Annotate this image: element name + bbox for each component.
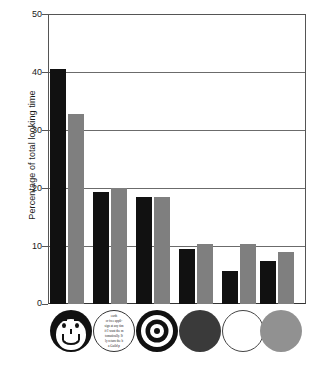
stimulus-cell-yellow-disc (260, 310, 304, 354)
y-tick-mark-0 (42, 304, 48, 305)
bar-red-disc-gray (197, 244, 213, 304)
bar-red-disc-black (179, 249, 195, 304)
y-tick-label-50: 50 (2, 9, 42, 19)
bar-face-black (50, 69, 66, 304)
face-mouth (62, 334, 80, 345)
newsprint-line: sign at any tim (105, 324, 124, 328)
bar-white-disc-black (222, 271, 238, 304)
newsprint-line: a Guild p (108, 344, 120, 348)
bar-group-printed-matter (93, 14, 127, 304)
bar-bullseye-black (136, 197, 152, 304)
newsprint-line: ly return the b (105, 339, 123, 343)
stimulus-yellow-disc-icon (260, 310, 302, 352)
newsprint-text: earthor free appli-sign at any timif I w… (94, 311, 134, 351)
stimulus-cell-red-disc (179, 310, 223, 354)
face-eye-left (62, 323, 66, 328)
stimulus-face-icon (50, 310, 92, 352)
bar-printed-matter-black (93, 192, 109, 304)
bar-bullseye-gray (154, 197, 170, 304)
bar-yellow-disc-black (260, 261, 276, 304)
bar-group-face (50, 14, 84, 304)
stimulus-newsprint-icon: earthor free appli-sign at any timif I w… (93, 310, 135, 352)
bar-white-disc-gray (240, 244, 256, 304)
bar-group-white-disc (222, 14, 256, 304)
face-brow-right (74, 319, 80, 321)
bar-group-bullseye (136, 14, 170, 304)
bar-group-red-disc (179, 14, 213, 304)
stimulus-cell-bullseye (136, 310, 180, 354)
bar-group-yellow-disc (260, 14, 294, 304)
y-axis-title: Percentage of total looking time (27, 55, 37, 255)
newsprint-line: tomatically. If (105, 334, 123, 338)
y-tick-label-10: 10 (2, 241, 42, 251)
y-tick-label-30: 30 (2, 125, 42, 135)
stimulus-red-disc-icon (179, 310, 221, 352)
newsprint-line: if I want the m (105, 329, 124, 333)
newsprint-line: or free appli- (106, 319, 123, 323)
y-tick-label-20: 20 (2, 183, 42, 193)
bar-yellow-disc-gray (278, 252, 294, 304)
bar-chart-figure: Percentage of total looking time 50 40 3… (0, 0, 314, 380)
y-tick-label-40: 40 (2, 67, 42, 77)
bar-face-gray (68, 114, 84, 304)
y-tick-label-0: 0 (2, 298, 42, 308)
stimulus-bullseye-icon (136, 310, 178, 352)
stimulus-cell-face (50, 310, 94, 354)
face-eye-right (75, 323, 79, 328)
bars-layer (48, 14, 306, 304)
bullseye-center (154, 328, 160, 334)
face-brow-left (61, 319, 67, 321)
bar-printed-matter-gray (111, 188, 127, 304)
newsprint-line: earth (111, 314, 117, 318)
stimulus-white-disc-icon (222, 310, 264, 352)
stimulus-cell-newsprint: earthor free appli-sign at any timif I w… (93, 310, 137, 354)
stimulus-row: earthor free appli-sign at any timif I w… (48, 308, 306, 368)
